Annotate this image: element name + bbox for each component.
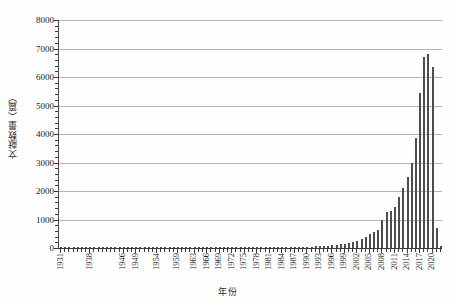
x-axis-tick (235, 248, 236, 252)
x-axis-tick (240, 248, 241, 252)
x-axis-tick (77, 248, 78, 252)
x-axis-tick-label: 1999 (339, 253, 348, 270)
x-axis-tick-label: 2011 (390, 253, 399, 270)
x-axis-tick (402, 248, 403, 252)
x-axis-tick (390, 248, 391, 252)
bar-series (59, 20, 442, 248)
y-axis-tick-labels: 010002000300040005000600070008000 (20, 0, 56, 305)
x-axis-tick (185, 248, 186, 252)
bar (436, 228, 438, 248)
y-axis-tick-label: 3000 (36, 158, 54, 167)
bar (390, 211, 392, 248)
x-axis-tick (169, 248, 170, 252)
x-axis-tick-label: 1963 (189, 253, 198, 270)
y-axis-tick-label: 2000 (36, 187, 54, 196)
y-axis-tick-label: 5000 (36, 101, 54, 110)
x-axis-tick (152, 248, 153, 252)
x-axis-tick (311, 248, 312, 252)
x-axis-tick (427, 248, 428, 252)
x-axis-tick (298, 248, 299, 252)
x-axis-tick-label: 1987 (289, 253, 298, 270)
y-axis-title: 文献数量（篇） (0, 0, 22, 250)
x-axis-tick (377, 248, 378, 252)
x-axis-tick (340, 248, 341, 252)
x-axis-tick (139, 248, 140, 252)
bar (373, 232, 375, 248)
x-axis-tick (440, 248, 441, 252)
x-axis-tick (102, 248, 103, 252)
x-axis-tick (119, 248, 120, 252)
x-axis-tick-label: 1931 (56, 253, 65, 270)
x-axis-tick (131, 248, 132, 252)
y-axis-tick-label: 8000 (36, 16, 54, 25)
x-axis-tick-label: 1938 (85, 253, 94, 270)
x-axis-tick (160, 248, 161, 252)
plot-area (58, 20, 442, 248)
x-axis-tick-label: 2008 (377, 253, 386, 270)
bar (365, 237, 367, 248)
x-axis-tick-label: 1975 (239, 253, 248, 270)
x-axis-tick (327, 248, 328, 252)
x-axis-tick (423, 248, 424, 252)
x-axis-tick (68, 248, 69, 252)
x-axis-tick (127, 248, 128, 252)
bar (356, 241, 358, 248)
chart-figure: 文献数量（篇） 01000200030004000500060007000800… (0, 0, 455, 305)
x-axis-tick (81, 248, 82, 252)
x-axis-tick-label: 1954 (152, 253, 161, 270)
bar (415, 138, 417, 248)
x-axis-tick (93, 248, 94, 252)
bar (432, 67, 434, 248)
x-axis-tick-label: 2002 (352, 253, 361, 270)
x-axis-tick (64, 248, 65, 252)
bar (402, 188, 404, 248)
x-axis-tick-label: 2017 (415, 253, 424, 270)
x-axis-tick-label: 1978 (252, 253, 261, 270)
x-axis-tick (436, 248, 437, 252)
x-axis-title: 年份 (0, 285, 455, 298)
x-axis-tick (227, 248, 228, 252)
x-axis-tick-label: 1959 (172, 253, 181, 270)
x-axis-tick (348, 248, 349, 252)
y-axis-tick-label: 4000 (36, 130, 54, 139)
x-axis-tick (415, 248, 416, 252)
x-axis-tick (144, 248, 145, 252)
x-axis-tick-label: 1966 (202, 253, 211, 270)
x-axis-tick (164, 248, 165, 252)
x-axis-tick-label: 1946 (118, 253, 127, 270)
x-axis-tick (248, 248, 249, 252)
bar (423, 57, 425, 248)
x-axis-tick-label: 1996 (327, 253, 336, 270)
x-axis-tick (315, 248, 316, 252)
x-axis-tick (323, 248, 324, 252)
x-axis-tick (148, 248, 149, 252)
y-axis-tick-label: 7000 (36, 44, 54, 53)
bar (407, 177, 409, 248)
x-axis-tick-label: 2020 (427, 253, 436, 270)
x-axis-tick-label: 2005 (364, 253, 373, 270)
x-axis-tick-label: 1949 (131, 253, 140, 270)
bar (361, 239, 363, 248)
x-axis-tick (98, 248, 99, 252)
x-axis-tick (114, 248, 115, 252)
x-axis-tick-label: 1969 (214, 253, 223, 270)
x-axis-tick (352, 248, 353, 252)
x-axis-tick (85, 248, 86, 252)
x-axis-tick (361, 248, 362, 252)
x-axis-title-text: 年份 (218, 287, 237, 297)
x-axis-tick (277, 248, 278, 252)
x-axis-tick (173, 248, 174, 252)
x-axis-tick (202, 248, 203, 252)
bar (398, 197, 400, 248)
x-axis-tick (181, 248, 182, 252)
bar (427, 54, 429, 248)
x-axis-tick (365, 248, 366, 252)
bar (411, 163, 413, 249)
y-axis-title-text: 文献数量（篇） (5, 92, 18, 159)
bar (377, 230, 379, 248)
x-axis-tick (302, 248, 303, 252)
x-axis-tick-label: 1972 (227, 253, 236, 270)
x-axis-tick (73, 248, 74, 252)
x-axis-tick (223, 248, 224, 252)
x-axis-tick (373, 248, 374, 252)
